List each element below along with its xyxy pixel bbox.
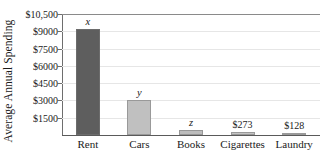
bar	[231, 132, 255, 135]
bar-group: $273	[231, 14, 255, 135]
y-axis-tick-label: $4500	[33, 78, 58, 89]
bar	[282, 133, 306, 135]
y-axis-tick-label: $6000	[33, 60, 58, 71]
y-axis-title-text: Average Annual Spending	[2, 19, 14, 142]
bar	[127, 100, 151, 135]
x-axis-line	[62, 135, 320, 136]
bar-value-label: y	[137, 87, 142, 98]
bar-value-label: x	[85, 16, 90, 27]
bar-series: xyz$273$128	[62, 14, 320, 135]
y-axis-tick-labels: $1500$3000$4500$6000$7500$9000$10,500	[14, 14, 62, 135]
x-axis-category-labels: RentCarsBooksCigarettesLaundry	[62, 138, 320, 158]
bar-chart: Average Annual Spending $1500$3000$4500$…	[0, 0, 324, 161]
x-axis-category-label: Laundry	[276, 138, 313, 150]
bar-value-label: z	[189, 117, 193, 128]
plot-area: xyz$273$128	[62, 14, 320, 135]
x-axis-category-label: Cars	[129, 138, 149, 150]
x-axis-category-label: Cigarettes	[220, 138, 265, 150]
bar-value-label: $273	[233, 119, 253, 130]
bar	[179, 130, 203, 135]
y-axis-tick-label: $9000	[33, 26, 58, 37]
y-axis-tick-label: $3000	[33, 95, 58, 106]
bar-group: x	[76, 14, 100, 135]
x-axis-category-label: Books	[177, 138, 205, 150]
bar-value-label: $128	[284, 120, 304, 131]
bar	[76, 29, 100, 135]
bar-group: y	[127, 14, 151, 135]
x-axis-category-label: Rent	[77, 138, 98, 150]
y-axis-tick-label: $7500	[33, 43, 58, 54]
bar-group: $128	[282, 14, 306, 135]
y-axis-tick-label: $10,500	[26, 9, 59, 20]
y-axis-tick-label: $1500	[33, 112, 58, 123]
bar-group: z	[179, 14, 203, 135]
